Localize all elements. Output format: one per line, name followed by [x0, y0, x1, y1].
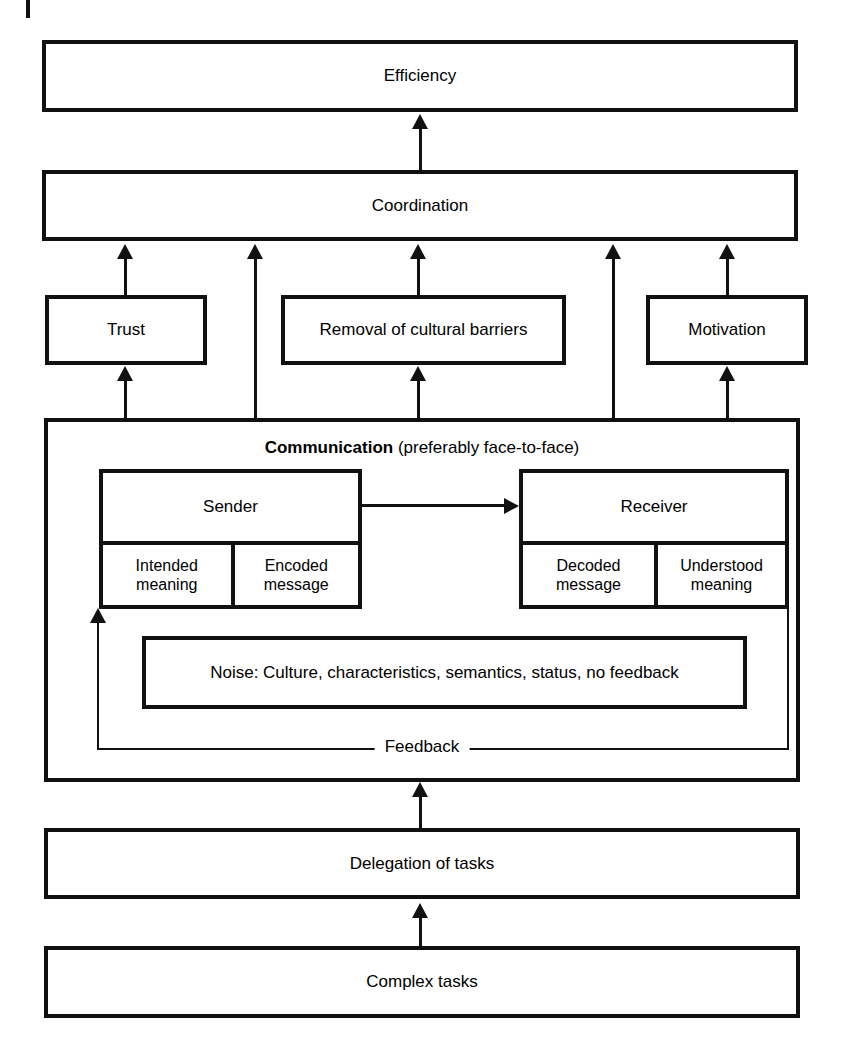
connector-sender-to-receiver — [362, 504, 507, 507]
efficiency-label: Efficiency — [384, 66, 456, 86]
encoded-message-label: Encoded message — [237, 556, 357, 594]
connector-communication-to-coordination-right — [612, 258, 615, 420]
coordination-label: Coordination — [372, 196, 468, 216]
complex-tasks-box: Complex tasks — [44, 946, 800, 1018]
receiver-header: Receiver — [523, 473, 785, 545]
arrowhead-feedback-to-sender — [90, 608, 106, 623]
arrowhead-communication-to-motivation — [719, 366, 735, 381]
sender-subboxes: Intended meaning Encoded message — [103, 545, 358, 605]
encoded-message-box: Encoded message — [231, 545, 359, 605]
arrowhead-communication-to-removal — [410, 366, 426, 381]
understood-meaning-label: Understood meaning — [660, 556, 783, 594]
removal-of-cultural-barriers-box: Removal of cultural barriers — [281, 295, 566, 365]
feedback-label: Feedback — [375, 738, 470, 755]
sender-header: Sender — [103, 473, 358, 545]
feedback-line-right — [787, 609, 789, 749]
noise-label: Noise: Culture, characteristics, semanti… — [210, 663, 679, 683]
arrowhead-communication-to-coordination-right — [605, 244, 621, 259]
arrowhead-removal-to-coordination — [410, 244, 426, 259]
page-trim-tick — [26, 0, 30, 18]
connector-delegation-to-communication — [419, 796, 422, 828]
trust-label: Trust — [107, 320, 145, 340]
connector-removal-to-coordination — [417, 258, 420, 296]
noise-box: Noise: Culture, characteristics, semanti… — [142, 636, 747, 709]
intended-meaning-label: Intended meaning — [105, 556, 229, 594]
communication-title-strong: Communication — [265, 438, 393, 457]
intended-meaning-box: Intended meaning — [103, 545, 231, 605]
sender-block: Sender Intended meaning Encoded message — [99, 469, 362, 609]
connector-communication-to-trust — [124, 380, 127, 420]
arrowhead-complex-to-delegation — [412, 903, 428, 918]
connector-trust-to-coordination — [124, 258, 127, 296]
connector-motivation-to-coordination — [726, 258, 729, 296]
receiver-subboxes: Decoded message Understood meaning — [523, 545, 785, 605]
sender-label: Sender — [203, 497, 258, 517]
arrowhead-trust-to-coordination — [117, 244, 133, 259]
arrowhead-motivation-to-coordination — [719, 244, 735, 259]
coordination-box: Coordination — [42, 170, 798, 241]
feedback-line-left — [97, 622, 99, 750]
decoded-message-label: Decoded message — [525, 556, 652, 594]
understood-meaning-box: Understood meaning — [654, 545, 785, 605]
motivation-box: Motivation — [646, 295, 808, 365]
motivation-label: Motivation — [688, 320, 765, 340]
decoded-message-box: Decoded message — [523, 545, 654, 605]
delegation-of-tasks-label: Delegation of tasks — [350, 854, 495, 874]
arrowhead-communication-to-trust — [117, 366, 133, 381]
connector-communication-to-motivation — [726, 380, 729, 420]
connector-communication-to-removal — [417, 380, 420, 420]
connector-communication-to-coordination-left — [254, 258, 257, 420]
arrowhead-coordination-to-efficiency — [412, 114, 428, 129]
diagram-canvas: Efficiency Coordination Trust Removal of… — [0, 0, 846, 1050]
complex-tasks-label: Complex tasks — [366, 972, 477, 992]
receiver-block: Receiver Decoded message Understood mean… — [519, 469, 789, 609]
delegation-of-tasks-box: Delegation of tasks — [44, 828, 800, 899]
receiver-label: Receiver — [620, 497, 687, 517]
communication-title-rest: (preferably face-to-face) — [393, 438, 579, 457]
efficiency-box: Efficiency — [42, 40, 798, 112]
communication-box: Communication (preferably face-to-face) … — [44, 418, 800, 782]
connector-complex-to-delegation — [419, 917, 422, 947]
arrowhead-sender-to-receiver — [504, 498, 519, 514]
removal-of-cultural-barriers-label: Removal of cultural barriers — [320, 320, 528, 340]
arrowhead-delegation-to-communication — [412, 782, 428, 797]
trust-box: Trust — [45, 295, 207, 365]
communication-title: Communication (preferably face-to-face) — [48, 438, 796, 458]
arrowhead-communication-to-coordination-left — [247, 244, 263, 259]
